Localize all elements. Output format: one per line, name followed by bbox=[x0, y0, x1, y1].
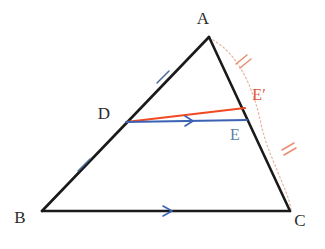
tick-mark-arc-upper bbox=[236, 55, 251, 68]
point-label-d: D bbox=[98, 104, 110, 123]
triangle-side-ab bbox=[42, 37, 209, 211]
tick-mark-arc-lower bbox=[282, 143, 296, 155]
point-label-a: A bbox=[197, 9, 210, 28]
point-label-b: B bbox=[14, 208, 25, 227]
point-label-e-prime: E′ bbox=[252, 86, 265, 103]
geometry-canvas: A B C D E E′ bbox=[0, 0, 325, 249]
geometry-figure: A B C D E E′ bbox=[0, 0, 325, 249]
point-label-e: E bbox=[230, 126, 240, 143]
triangle-side-ca bbox=[209, 37, 290, 211]
point-label-c: C bbox=[294, 211, 305, 230]
tick-mark-db bbox=[78, 159, 90, 171]
